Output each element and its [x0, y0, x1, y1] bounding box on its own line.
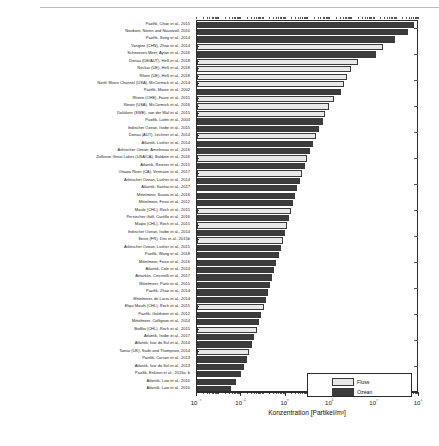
y-tick-mark [196, 24, 199, 25]
bar-row [197, 296, 417, 303]
x-tick-top [247, 17, 248, 19]
bar-row [197, 147, 417, 154]
y-tick-mark [196, 373, 199, 374]
bar [197, 141, 313, 147]
y-tick-label: Atlantik, Kanhai et al., 2017 [141, 185, 190, 189]
right-axis-tick [414, 340, 418, 341]
x-tick-top [365, 17, 366, 19]
y-tick-label: Antarktis, Cincinelli et al., 2017 [135, 274, 190, 278]
y-tick-label: Indischer Ozean, Isobe et al., 2015 [128, 126, 190, 130]
y-tick-label: Mittelmeer, Collignon et al., 2014 [132, 319, 190, 323]
bar-row [197, 259, 417, 266]
y-tick-label: Pazifik, Lattin et al., 2004 [145, 118, 190, 122]
bar-row [197, 66, 417, 73]
y-tick-label: Elqui Mouth (CHL), Rech et al., 2015 [125, 304, 190, 308]
bar-row [197, 341, 417, 348]
bar [197, 237, 283, 243]
y-tick-label: Pazifik, Moore et al., 2002 [144, 88, 190, 92]
chart-figure: Pazifik, Chae et al., 2015Nordsee, Noren… [0, 0, 439, 446]
y-tick-mark [196, 239, 199, 240]
bar-row [197, 118, 417, 125]
y-tick-label: Mittelmeer, de Lucia et al., 2014 [133, 297, 190, 301]
bar [197, 252, 279, 258]
bar [197, 89, 341, 95]
bar-row [197, 155, 417, 162]
bar [197, 312, 261, 318]
bar-row [197, 125, 417, 132]
bar [197, 304, 264, 310]
y-tick-mark [196, 61, 199, 62]
bar-row [197, 244, 417, 251]
y-tick-label: Nordsee, Noren and Naustvoll, 2010 [125, 29, 190, 33]
y-tick-mark [196, 46, 199, 47]
y-tick-label: Dalälven (SWE), van der Wal et al., 2015 [117, 111, 190, 115]
y-tick-label: Atlantik, Law et al., 2010 [146, 386, 190, 390]
y-tick-label: Pazifik, Song et al., 2014 [146, 36, 190, 40]
bar-row [197, 177, 417, 184]
y-tick-label: Atlantik, Ivar do Sul et al., 2013 [135, 364, 190, 368]
y-tick-mark [196, 321, 199, 322]
legend-swatch-ozean [332, 388, 354, 396]
bar [197, 371, 241, 377]
x-tick-top [203, 17, 204, 19]
bar-row [197, 311, 417, 318]
y-tick-label: Rhein (DE), Heß et al., 2018 [140, 74, 190, 78]
bar [197, 341, 252, 347]
y-tick-label: Pazifik, Zhao et al., 2014 [146, 289, 190, 293]
bar-row [197, 140, 417, 147]
bar-row [197, 21, 417, 28]
bar [197, 44, 383, 50]
x-tick-label: 10⁰ [280, 398, 289, 406]
y-tick-mark [196, 366, 199, 367]
bar-row [197, 110, 417, 117]
x-tick-top [285, 17, 286, 19]
y-tick-mark [196, 68, 199, 69]
bar-row [197, 289, 417, 296]
bar [197, 282, 270, 288]
y-tick-mark [196, 180, 199, 181]
bar [197, 103, 329, 109]
y-tick-mark [196, 329, 199, 330]
y-tick-mark [196, 344, 199, 345]
y-tick-mark [196, 135, 199, 136]
bar-row [197, 192, 417, 199]
bar [197, 126, 319, 132]
x-tick-top [276, 17, 277, 19]
legend-swatch-fluss [332, 378, 354, 386]
bar-row [197, 363, 417, 370]
y-tick-mark [196, 128, 199, 129]
bar [197, 222, 287, 228]
x-tick-major [418, 392, 419, 396]
y-tick-mark [196, 31, 199, 32]
bar [197, 51, 376, 57]
bar [197, 215, 289, 221]
y-tick-mark [196, 150, 199, 151]
right-axis-tick [414, 288, 418, 289]
x-tick-top [207, 17, 208, 19]
bar [197, 349, 249, 355]
y-tick-mark [196, 120, 199, 121]
x-tick-top [298, 17, 299, 19]
y-tick-label: North Shore Channel (USA), McCormick et … [97, 81, 190, 85]
bar [197, 200, 293, 206]
x-tick-top [218, 17, 219, 19]
y-tick-label: Atlantik, Law et al., 2010 [146, 379, 190, 383]
y-tick-mark [196, 76, 199, 77]
bar-row [197, 266, 417, 273]
bar-row [197, 319, 417, 326]
x-tick-top [314, 17, 315, 19]
y-tick-mark [196, 247, 199, 248]
bar-row [197, 229, 417, 236]
x-tick-top [196, 17, 197, 19]
bar [197, 260, 276, 266]
y-tick-label: Donau (DE/AUT), Heß et al., 2018 [129, 59, 190, 63]
y-tick-mark [196, 187, 199, 188]
bar-row [197, 43, 417, 50]
y-tick-label: Pazifik, Wang et al., 2018 [145, 252, 190, 256]
y-tick-mark [196, 359, 199, 360]
y-tick-label: Atlantik, Ivar do Sul et al., 2014 [135, 341, 190, 345]
bar-row [197, 333, 417, 340]
y-tick-label: Neckar (DE), Heß et al., 2018 [137, 66, 190, 70]
y-tick-label: Arktischer Ozean, Lusher et al., 2014 [124, 178, 190, 182]
y-tick-mark [196, 232, 199, 233]
